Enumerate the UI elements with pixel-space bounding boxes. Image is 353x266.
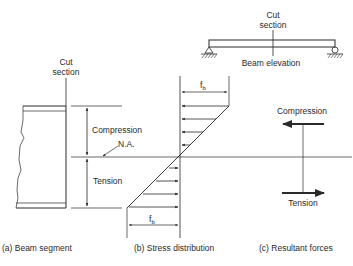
na-leader-arrow bbox=[103, 146, 118, 156]
caption-c: (c) Resultant forces bbox=[259, 243, 333, 253]
top-fb-label: fb bbox=[200, 80, 206, 91]
segment-cut-label-2: section bbox=[53, 67, 80, 77]
tension-stress-arrows bbox=[129, 168, 178, 207]
bottom-fb-label: fb bbox=[149, 214, 155, 225]
roller-support-icon bbox=[327, 47, 343, 58]
beam-segment bbox=[16, 78, 352, 208]
beam-elevation bbox=[201, 30, 343, 58]
neutral-axis-label: N.A. bbox=[118, 139, 135, 149]
tension-label: Tension bbox=[93, 176, 123, 186]
compression-stress-arrows bbox=[182, 106, 229, 145]
break-line bbox=[16, 106, 24, 208]
elevation-cut-label-2: section bbox=[260, 20, 287, 30]
caption-a: (a) Beam segment bbox=[2, 243, 73, 253]
pin-support-icon bbox=[201, 47, 217, 58]
resultant-compression-label: Compression bbox=[277, 106, 327, 116]
compression-label: Compression bbox=[92, 125, 142, 135]
segment-cut-label-1: Cut bbox=[59, 57, 73, 67]
caption-b: (b) Stress distribution bbox=[134, 243, 215, 253]
beam-bending-diagram: Cut section Beam elevation Cut section C… bbox=[0, 0, 353, 266]
elevation-cut-label-1: Cut bbox=[266, 10, 280, 20]
resultant-tension-label: Tension bbox=[288, 198, 318, 208]
beam-outline bbox=[209, 40, 335, 47]
resultant-forces bbox=[282, 124, 324, 193]
elevation-caption: Beam elevation bbox=[242, 58, 301, 68]
